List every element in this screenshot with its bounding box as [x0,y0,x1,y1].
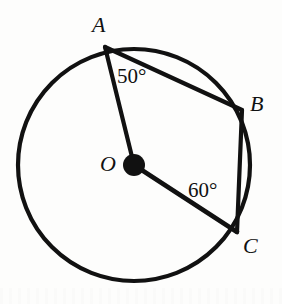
geometry-figure: A B C O 50° 60° [0,0,282,304]
segment-radius-OC [134,165,237,232]
center-point-O [123,154,145,176]
point-label-C: C [243,235,258,257]
angle-measure-at-C: 60° [188,180,217,201]
point-label-B: B [250,93,263,115]
point-label-A: A [92,14,105,36]
geometry-canvas [0,0,282,304]
point-label-O: O [100,153,116,175]
angle-measure-at-A: 50° [117,66,146,87]
